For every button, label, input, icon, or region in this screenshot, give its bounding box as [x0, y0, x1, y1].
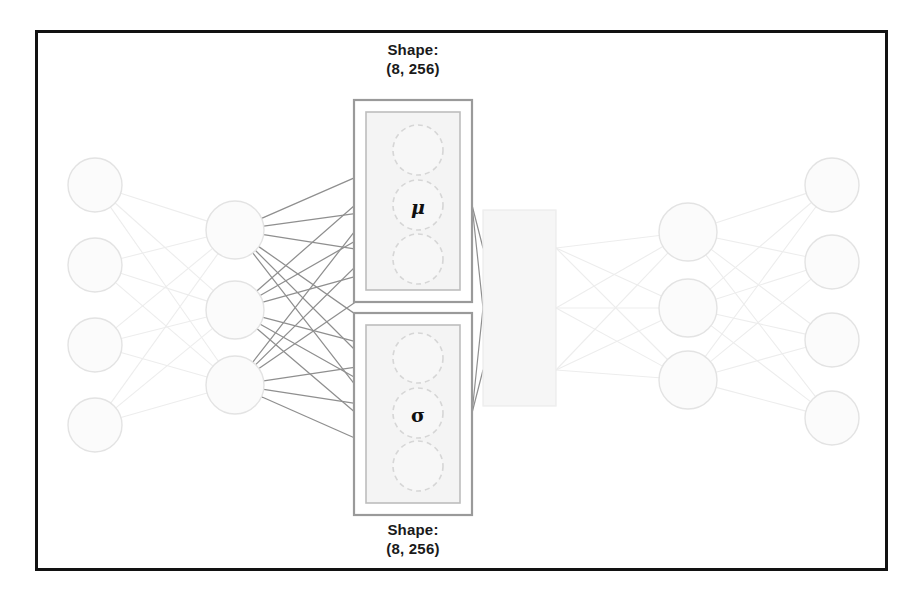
shape-label-sigma: Shape: (8, 256) — [338, 520, 488, 558]
output-layer-node-4 — [805, 391, 859, 445]
edges-input-to-encoder — [110, 193, 218, 417]
edge-input-to-encoder — [115, 203, 213, 291]
encoder-hidden-layer-node-3 — [206, 356, 264, 414]
edge-input-to-encoder — [111, 254, 218, 404]
decoder-hidden-layer-node-1 — [659, 203, 717, 261]
output-layer-node-2 — [805, 235, 859, 289]
mu-symbol-label: μ — [398, 196, 438, 218]
edge-input-to-encoder — [115, 283, 212, 367]
edge-sampler-to-decoder — [556, 248, 667, 359]
sigma-layer-node-3 — [393, 441, 443, 491]
edge-sampler-to-decoder — [556, 253, 668, 370]
edge-sampler-to-decoder — [556, 248, 662, 296]
edge-sampler-to-decoder — [556, 235, 659, 248]
edge-input-to-encoder — [121, 193, 208, 221]
latent-sampling-box — [483, 210, 556, 406]
decoder-hidden-layer-node-3 — [659, 351, 717, 409]
sigma-layer-node-1 — [393, 333, 443, 383]
encoder-hidden-layer-node-2 — [206, 281, 264, 339]
diagram-canvas: Shape: (8, 256) Shape: (8, 256) μ σ — [0, 0, 924, 601]
edge-decoder-to-output — [716, 238, 805, 257]
edge-decoder-to-output — [705, 207, 816, 357]
mu-layer-node-1 — [393, 125, 443, 175]
sigma-symbol-label: σ — [398, 404, 438, 426]
edge-sampler-to-decoder — [556, 320, 662, 370]
edge-input-to-encoder — [116, 248, 213, 327]
neural-network-diagram — [0, 0, 924, 601]
edge-sampler-to-decoder — [556, 308, 663, 366]
edges-latent-params-to-sampler — [472, 205, 483, 413]
shape-label-mu: Shape: (8, 256) — [338, 40, 488, 78]
edge-decoder-to-output — [716, 347, 806, 372]
edge-decoder-to-output — [716, 387, 806, 411]
edge-input-to-encoder — [121, 393, 207, 418]
edge-decoder-to-output — [711, 249, 810, 323]
edge-mu-to-sampler — [472, 205, 483, 248]
edges-decoder-to-output — [705, 193, 816, 411]
input-layer-node-3 — [68, 318, 122, 372]
edge-decoder-to-output — [706, 255, 816, 397]
edge-sigma-to-sampler — [472, 308, 483, 413]
input-layer-node-1 — [68, 158, 122, 212]
input-layer-node-4 — [68, 398, 122, 452]
edge-input-to-encoder — [121, 352, 207, 377]
latent-sampling-rect — [483, 210, 556, 406]
edge-mu-to-sampler — [472, 205, 483, 308]
output-layer-node-3 — [805, 313, 859, 367]
decoder-hidden-layer-node-2 — [659, 279, 717, 337]
output-layer-node-1 — [805, 158, 859, 212]
edge-input-to-encoder — [121, 317, 207, 338]
edge-sampler-to-decoder — [556, 370, 659, 378]
encoder-hidden-layer-node-1 — [206, 201, 264, 259]
mu-layer-node-3 — [393, 234, 443, 284]
input-layer-node-2 — [68, 238, 122, 292]
edge-decoder-to-output — [710, 279, 811, 362]
edge-decoder-to-output — [710, 203, 811, 290]
edge-input-to-encoder — [110, 207, 218, 361]
edges-latent-to-decoder — [556, 235, 668, 377]
